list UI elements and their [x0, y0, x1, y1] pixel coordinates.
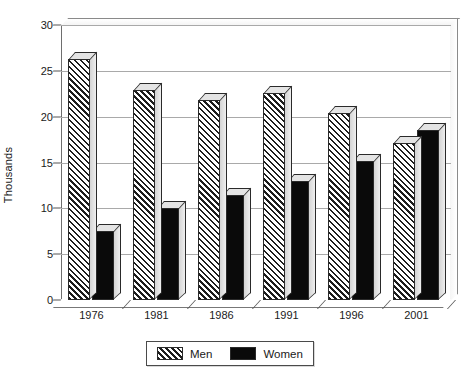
plot-area: 051015202530 — [61, 25, 451, 300]
bar-side-face — [414, 136, 422, 300]
y-axis-tick-label: 15 — [5, 157, 53, 169]
bar-side-face — [373, 153, 381, 300]
y-axis-tick-label: 5 — [5, 248, 53, 260]
x-axis-tick-label: 1996 — [322, 309, 382, 321]
y-axis-title: Thousands — [2, 0, 14, 110]
bar-side-face — [113, 224, 121, 300]
bar-front-face — [263, 93, 285, 300]
bar-side-face — [284, 86, 292, 300]
x-axis-tick-label: 1986 — [192, 309, 252, 321]
bar-side-face — [89, 52, 97, 300]
legend: MenWomen — [146, 341, 314, 366]
bar-chart: Thousands 051015202530 19761981198619911… — [0, 0, 473, 386]
y-axis-tick-label: 0 — [5, 294, 53, 306]
bar-men-2001 — [393, 143, 415, 300]
x-axis-tick-mark — [187, 300, 196, 309]
bar-men-1976 — [68, 59, 90, 300]
y-axis-tick-label: 10 — [5, 202, 53, 214]
x-axis-tick-mark — [382, 300, 391, 309]
bar-front-face — [68, 59, 90, 300]
x-axis-tick-label: 1976 — [62, 309, 122, 321]
bar-front-face — [198, 100, 220, 300]
y-axis-tick-label: 20 — [5, 111, 53, 123]
bar-side-face — [349, 106, 357, 300]
legend-swatch-men — [157, 347, 183, 360]
bar-side-face — [308, 174, 316, 300]
bar-side-face — [154, 83, 162, 300]
legend-label: Women — [263, 348, 302, 360]
x-axis-tick-mark — [252, 300, 261, 309]
legend-item-men[interactable]: Men — [157, 347, 212, 360]
x-axis-tick-label: 2001 — [387, 309, 447, 321]
bar-men-1986 — [198, 100, 220, 300]
bar-side-face — [438, 123, 446, 300]
x-axis-tick-mark — [447, 300, 456, 309]
bar-series-group — [61, 25, 451, 300]
x-axis-tick-mark — [317, 300, 326, 309]
y-axis-tick-label: 25 — [5, 65, 53, 77]
legend-label: Men — [190, 348, 212, 360]
bar-side-face — [178, 201, 186, 300]
x-axis-tick-mark — [122, 300, 131, 309]
y-axis-tick-label: 30 — [5, 19, 53, 31]
legend-item-women[interactable]: Women — [230, 347, 302, 360]
x-axis-ticks: 197619811986199119962001 — [61, 300, 461, 328]
plot-depth-right — [450, 18, 458, 301]
bar-side-face — [243, 187, 251, 300]
legend-swatch-women — [230, 347, 256, 360]
x-axis-tick-label: 1991 — [257, 309, 317, 321]
bar-front-face — [328, 113, 350, 300]
bar-side-face — [219, 93, 227, 300]
x-axis-tick-label: 1981 — [127, 309, 187, 321]
bar-men-1981 — [133, 90, 155, 300]
y-axis-title-text: Thousands — [2, 110, 14, 240]
bar-front-face — [393, 143, 415, 300]
bar-men-1996 — [328, 113, 350, 300]
bar-men-1991 — [263, 93, 285, 300]
bar-front-face — [133, 90, 155, 300]
